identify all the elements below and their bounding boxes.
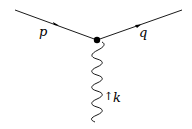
photon-wavy-line — [91, 42, 104, 122]
diagram-canvas — [0, 0, 192, 129]
up-arrow-icon: ↑ — [104, 91, 113, 102]
vertex-dot — [94, 37, 100, 43]
incoming-arrow-icon — [53, 22, 59, 26]
momentum-label-q: q — [139, 26, 147, 39]
momentum-label-p: p — [39, 25, 47, 38]
feynman-diagram: p q ↑ k — [0, 0, 192, 129]
momentum-label-k: k — [113, 91, 121, 104]
